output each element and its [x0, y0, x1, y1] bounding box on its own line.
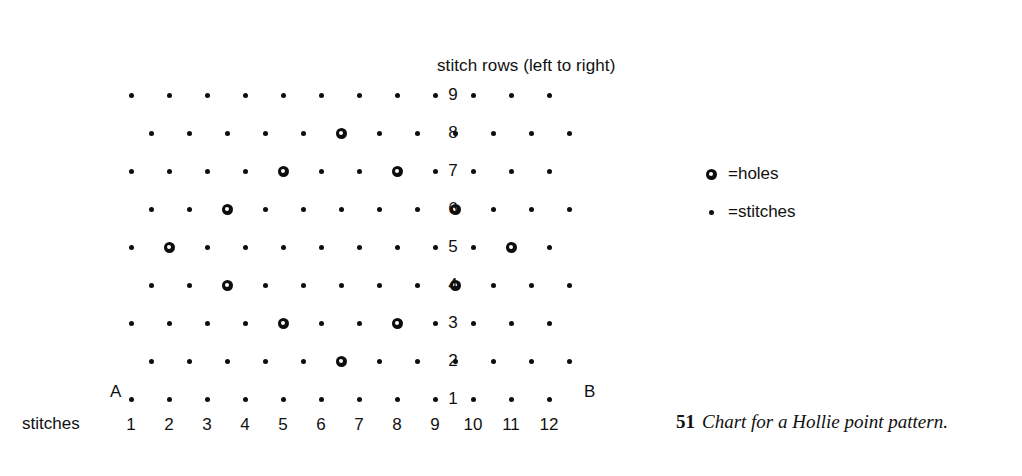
hole-icon: [392, 318, 403, 329]
stitch-cell: [140, 198, 162, 220]
stitch-cell: [348, 312, 370, 334]
stitch-cell: [482, 122, 504, 144]
stitch-cell: [120, 388, 142, 410]
stitch-cell: [482, 274, 504, 296]
stitch-cell: [520, 350, 542, 372]
stitch-cell: [234, 236, 256, 258]
stitch-cell: [386, 84, 408, 106]
stitch-icon: [225, 359, 230, 364]
marker-b-label: B: [584, 382, 595, 402]
stitch-cell: [538, 84, 560, 106]
hole-icon: [278, 318, 289, 329]
legend-item: =holes: [700, 155, 880, 193]
stitch-cell: [158, 160, 180, 182]
stitch-cell: [120, 236, 142, 258]
stitch-icon: [529, 207, 534, 212]
stitch-icon: [243, 321, 248, 326]
stitch-icon: [149, 207, 154, 212]
hole-icon: [222, 204, 233, 215]
stitch-icon: [529, 283, 534, 288]
stitch-cell: [272, 236, 294, 258]
stitch-icon: [547, 245, 552, 250]
stitch-cell: [482, 350, 504, 372]
chart-title: stitch rows (left to right): [437, 56, 615, 76]
stitch-icon: [149, 359, 154, 364]
caption-number: 51: [676, 411, 695, 432]
stitch-icon: [471, 397, 476, 402]
hole-cell: [158, 236, 180, 258]
stitch-cell: [500, 312, 522, 334]
stitch-cell: [406, 350, 428, 372]
row-number-label: 3: [440, 312, 466, 334]
stitch-cell: [368, 350, 390, 372]
stitch-cell: [520, 274, 542, 296]
stitch-icon: [301, 207, 306, 212]
stitch-cell: [386, 236, 408, 258]
stitch-row: [120, 160, 590, 198]
stitch-icon: [491, 283, 496, 288]
stitch-cell: [310, 84, 332, 106]
stitch-cell: [292, 198, 314, 220]
stitch-cell: [216, 122, 238, 144]
figure-caption: 51Chart for a Hollie point pattern.: [676, 411, 948, 433]
stitch-icon: [491, 131, 496, 136]
stitch-cell: [348, 160, 370, 182]
stitch-cell: [348, 388, 370, 410]
stitch-grid: [120, 84, 590, 404]
stitch-icon: [567, 359, 572, 364]
stitch-icon: [301, 359, 306, 364]
stitch-icon: [129, 93, 134, 98]
stitch-cell: [348, 236, 370, 258]
stitch-icon: [281, 93, 286, 98]
stitch-cell: [558, 198, 580, 220]
stitch-icon: [377, 207, 382, 212]
stitch-icon: [377, 131, 382, 136]
stitch-row: [120, 122, 590, 160]
stitch-cell: [310, 388, 332, 410]
stitch-icon: [243, 93, 248, 98]
stitch-icon: [339, 283, 344, 288]
stitch-icon: [395, 397, 400, 402]
row-number-label: 2: [440, 350, 466, 372]
stitch-number-label: 5: [268, 414, 298, 436]
stitch-icon: [415, 207, 420, 212]
stitch-icon: [205, 169, 210, 174]
stitch-icon: [319, 321, 324, 326]
stitch-icon: [243, 397, 248, 402]
stitch-icon: [129, 321, 134, 326]
stitch-icon: [491, 359, 496, 364]
stitch-cell: [558, 122, 580, 144]
hole-icon: [706, 169, 717, 180]
stitch-icon: [129, 397, 134, 402]
stitch-cell: [254, 122, 276, 144]
stitch-icon: [415, 283, 420, 288]
row-number-label: 4: [440, 274, 466, 296]
stitch-icon: [129, 169, 134, 174]
stitch-number-label: 11: [496, 414, 526, 436]
row-number-label: 6: [440, 198, 466, 220]
stitch-icon: [509, 93, 514, 98]
stitch-icon: [167, 169, 172, 174]
stitch-cell: [368, 198, 390, 220]
stitch-cell: [330, 198, 352, 220]
stitch-cell: [292, 274, 314, 296]
stitch-icon: [471, 245, 476, 250]
row-number-label: 8: [440, 122, 466, 144]
stitch-cell: [500, 388, 522, 410]
stitch-cell: [120, 84, 142, 106]
stitch-cell: [406, 122, 428, 144]
stitch-icon: [301, 283, 306, 288]
stitch-cell: [482, 198, 504, 220]
stitch-cell: [254, 198, 276, 220]
stitch-cell: [538, 312, 560, 334]
stitch-row: [120, 350, 590, 388]
stitch-cell: [178, 122, 200, 144]
hole-cell: [386, 312, 408, 334]
stitch-icon: [415, 131, 420, 136]
stitch-number-label: 9: [420, 414, 450, 436]
stitch-icon: [319, 169, 324, 174]
stitch-icon: [301, 131, 306, 136]
hole-cell: [330, 122, 352, 144]
stitch-icon: [149, 131, 154, 136]
stitch-icon: [187, 283, 192, 288]
